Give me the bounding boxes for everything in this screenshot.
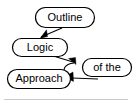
node-logic[interactable]: Logic: [13, 39, 68, 57]
edge-of-the-to-approach-line: [72, 78, 98, 79]
node-link-diagram: Outline Logic Approach of the: [0, 0, 138, 105]
node-approach[interactable]: Approach: [8, 70, 71, 89]
edge-outline-to-logic: [40, 28, 62, 39]
node-of-the-label: of the: [93, 61, 121, 73]
diagram-canvas: Outline Logic Approach of the: [0, 0, 138, 105]
node-outline-label: Outline: [48, 11, 83, 23]
node-of-the[interactable]: of the: [83, 59, 132, 77]
node-logic-label: Logic: [27, 41, 54, 53]
node-approach-label: Approach: [15, 72, 62, 84]
node-outline[interactable]: Outline: [36, 8, 95, 28]
edge-outline-to-logic-arrowhead: [40, 30, 48, 39]
